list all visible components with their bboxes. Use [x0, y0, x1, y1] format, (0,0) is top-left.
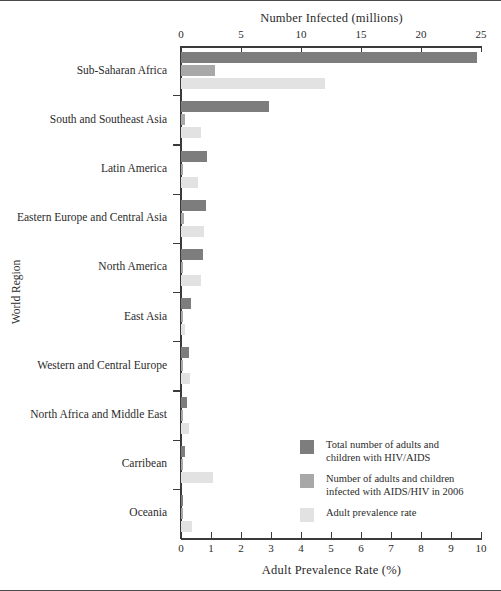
bar-total_millions-4	[181, 249, 203, 260]
bar-prevalence_pct-1	[181, 127, 201, 138]
top-tick-0	[181, 46, 182, 52]
top-tick-label-15: 15	[341, 29, 381, 40]
top-tick-label-25: 25	[461, 29, 501, 40]
category-tick-4	[173, 243, 180, 244]
bar-prevalence_pct-8	[181, 472, 213, 483]
bottom-tick-0	[181, 532, 182, 538]
category-label-9: Oceania	[0, 506, 175, 518]
top-tick-5	[241, 46, 242, 52]
category-tick-6	[173, 341, 180, 342]
bar-prevalence_pct-4	[181, 275, 201, 286]
bar-total_millions-5	[181, 298, 191, 309]
category-label-6: Western and Central Europe	[0, 359, 175, 371]
bar-prevalence_pct-2	[181, 177, 198, 188]
bottom-tick-1	[211, 532, 212, 538]
bar-total_millions-1	[181, 101, 269, 112]
top-tick-20	[421, 46, 422, 52]
chart-legend: Total number of adults andchildren with …	[300, 438, 500, 540]
bar-new_2006_millions-9	[181, 508, 183, 519]
bottom-tick-label-10: 10	[461, 543, 501, 554]
top-tick-10	[301, 46, 302, 52]
bar-total_millions-2	[181, 151, 207, 162]
bar-new_2006_millions-3	[181, 213, 184, 224]
top-tick-label-0: 0	[161, 29, 201, 40]
category-tick-9	[173, 489, 180, 490]
legend-item-0: Total number of adults andchildren with …	[300, 438, 500, 464]
legend-swatch-0	[300, 440, 314, 454]
top-axis-title: Number Infected (millions)	[181, 11, 482, 26]
bar-prevalence_pct-0	[181, 78, 325, 89]
bar-new_2006_millions-2	[181, 164, 183, 175]
category-label-1: South and Southeast Asia	[0, 113, 175, 125]
category-label-4: North America	[0, 260, 175, 272]
category-label-3: Eastern Europe and Central Asia	[0, 211, 175, 223]
category-label-8: Carribean	[0, 457, 175, 469]
bar-new_2006_millions-5	[181, 311, 183, 322]
bar-total_millions-3	[181, 200, 206, 211]
top-tick-15	[361, 46, 362, 52]
bottom-tick-3	[271, 532, 272, 538]
bar-total_millions-6	[181, 347, 189, 358]
legend-label-2: Adult prevalence rate	[326, 506, 500, 519]
top-axis-line	[181, 46, 482, 48]
category-tick-2	[173, 144, 180, 145]
bar-new_2006_millions-7	[181, 410, 183, 421]
bar-total_millions-7	[181, 397, 187, 408]
category-tick-7	[173, 390, 180, 391]
bar-prevalence_pct-6	[181, 373, 190, 384]
bar-new_2006_millions-8	[181, 459, 183, 470]
chart-frame: Number Infected (millions) Adult Prevale…	[0, 0, 501, 591]
top-tick-25	[481, 46, 482, 52]
bar-total_millions-8	[181, 446, 185, 457]
category-tick-5	[173, 292, 180, 293]
category-label-7: North Africa and Middle East	[0, 408, 175, 420]
category-tick-3	[173, 194, 180, 195]
legend-label-0: Total number of adults andchildren with …	[326, 438, 500, 464]
bar-prevalence_pct-3	[181, 226, 204, 237]
legend-item-2: Adult prevalence rate	[300, 506, 500, 532]
category-label-0: Sub-Saharan Africa	[0, 64, 175, 76]
bar-prevalence_pct-9	[181, 521, 192, 532]
legend-label-1: Number of adults and childreninfected wi…	[326, 472, 500, 498]
bar-prevalence_pct-7	[181, 423, 189, 434]
legend-swatch-1	[300, 474, 314, 488]
legend-item-1: Number of adults and childreninfected wi…	[300, 472, 500, 498]
category-label-2: Latin America	[0, 162, 175, 174]
bar-total_millions-0	[181, 52, 477, 63]
bar-prevalence_pct-5	[181, 324, 185, 335]
category-tick-1	[173, 95, 180, 96]
category-label-5: East Asia	[0, 310, 175, 322]
top-tick-label-5: 5	[221, 29, 261, 40]
bar-new_2006_millions-1	[181, 114, 185, 125]
bottom-tick-2	[241, 532, 242, 538]
legend-swatch-2	[300, 508, 314, 522]
bar-new_2006_millions-6	[181, 360, 183, 371]
y-axis-title: World Region	[10, 232, 22, 352]
bar-total_millions-9	[181, 495, 183, 506]
category-tick-8	[173, 440, 180, 441]
bottom-axis-title: Adult Prevalence Rate (%)	[181, 563, 482, 578]
bar-new_2006_millions-0	[181, 65, 215, 76]
top-tick-label-10: 10	[281, 29, 321, 40]
bar-new_2006_millions-4	[181, 262, 183, 273]
top-tick-label-20: 20	[401, 29, 441, 40]
